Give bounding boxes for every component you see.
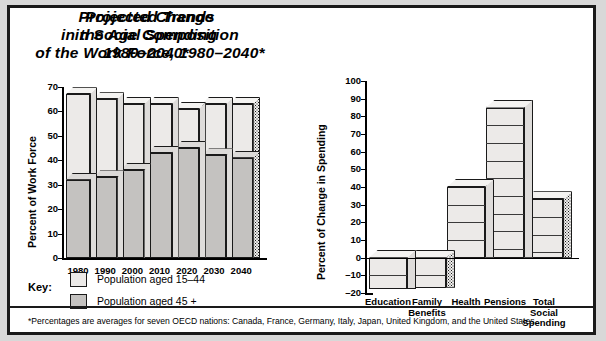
right-bar-side-4 — [563, 191, 572, 257]
right-ytick-60: 60 — [329, 146, 361, 157]
right-zero-line — [365, 258, 579, 260]
right-ytick-50: 50 — [329, 163, 361, 174]
right-ytick-10: 10 — [329, 234, 361, 245]
right-bar-band — [447, 205, 485, 206]
footnote-text: *Percentages are averages for seven OECD… — [28, 316, 588, 326]
right-x-axis — [365, 293, 373, 295]
right-plot-area: –20–100102030405060708090100EducationFam… — [10, 8, 310, 308]
right-bar-side-3 — [524, 100, 533, 258]
right-bar-face-0 — [369, 258, 407, 290]
right-bar-band — [486, 125, 524, 126]
right-ytick-30: 30 — [329, 199, 361, 210]
right-ytick-100: 100 — [329, 75, 361, 86]
right-ytick-70: 70 — [329, 128, 361, 139]
right-bar-band — [369, 275, 407, 276]
right-ytick--20: –20 — [329, 287, 361, 298]
right-ytick-90: 90 — [329, 93, 361, 104]
right-bar-band — [447, 222, 485, 223]
right-ytick-0: 0 — [329, 252, 361, 263]
key-swatch-light — [70, 272, 87, 287]
right-bar-band — [486, 143, 524, 144]
right-ytick-40: 40 — [329, 181, 361, 192]
right-ytick--10: –10 — [329, 269, 361, 280]
right-bar-band — [447, 240, 485, 241]
right-y-axis-label: Percent of Change in Spending — [315, 124, 327, 280]
right-ytick-20: 20 — [329, 216, 361, 227]
right-y-axis — [365, 81, 367, 295]
footnote-divider — [10, 306, 593, 308]
right-ytick-80: 80 — [329, 110, 361, 121]
right-bar-band — [486, 161, 524, 162]
key-label: Key: — [28, 281, 52, 293]
chart-social-spending: Projected Change in Social Spending 1980… — [10, 8, 282, 62]
figure-frame: Projected Trends in the Age Composition … — [7, 5, 596, 335]
right-bar-side-2 — [485, 179, 494, 258]
key-text-0: Population aged 15–44 — [97, 273, 205, 285]
